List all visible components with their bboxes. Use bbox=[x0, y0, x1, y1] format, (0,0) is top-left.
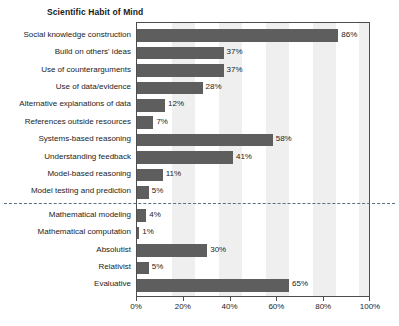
category-label: Use of counterarguments bbox=[41, 65, 131, 75]
category-label: Mathematical modeling bbox=[49, 210, 131, 220]
bar bbox=[137, 244, 207, 257]
bar bbox=[137, 64, 224, 77]
x-ticklabel: 80% bbox=[315, 302, 331, 311]
x-tick bbox=[230, 297, 231, 301]
value-label: 30% bbox=[210, 245, 226, 255]
x-tick bbox=[183, 297, 184, 301]
bar bbox=[137, 29, 338, 42]
bar bbox=[137, 82, 203, 95]
category-label: Build on others' ideas bbox=[55, 47, 131, 57]
value-label: 41% bbox=[236, 152, 252, 162]
bars-layer bbox=[137, 23, 369, 296]
category-label: References outside resources bbox=[25, 117, 131, 127]
value-label: 65% bbox=[292, 279, 308, 289]
value-label: 11% bbox=[166, 169, 181, 179]
chart-figure: Scientific Habit of Mind Social knowledg… bbox=[0, 0, 399, 326]
category-label: Alternative explanations of data bbox=[19, 99, 131, 109]
category-label: Understanding feedback bbox=[44, 152, 131, 162]
x-tick bbox=[276, 297, 277, 301]
value-label: 12% bbox=[168, 99, 184, 109]
plot-area bbox=[136, 22, 370, 297]
x-ticklabel: 60% bbox=[268, 302, 284, 311]
value-label: 5% bbox=[152, 186, 164, 196]
category-label: Mathematical computation bbox=[38, 227, 131, 237]
value-label: 4% bbox=[149, 210, 161, 220]
bar bbox=[137, 134, 273, 147]
x-ticklabel: 40% bbox=[222, 302, 238, 311]
x-tick bbox=[136, 297, 137, 301]
value-label: 86% bbox=[341, 30, 357, 40]
bar bbox=[137, 169, 163, 182]
value-label: 37% bbox=[227, 47, 243, 57]
x-ticklabel: 20% bbox=[175, 302, 191, 311]
category-label: Social knowledge construction bbox=[23, 30, 131, 40]
x-ticklabel: 100% bbox=[360, 302, 380, 311]
value-label: 58% bbox=[276, 134, 292, 144]
bar bbox=[137, 279, 289, 292]
category-label: Use of data/evidence bbox=[56, 82, 131, 92]
x-tick bbox=[369, 297, 370, 301]
category-label: Model-based reasoning bbox=[47, 169, 131, 179]
x-axis-ticklabels: 0%20%40%60%80%100% bbox=[136, 302, 370, 316]
bar bbox=[137, 262, 149, 275]
x-ticklabel: 0% bbox=[130, 302, 142, 311]
category-label: Relativist bbox=[99, 262, 131, 272]
chart-title: Scientific Habit of Mind bbox=[47, 7, 143, 17]
value-label: 28% bbox=[206, 82, 222, 92]
bar bbox=[137, 151, 233, 164]
value-label: 5% bbox=[152, 262, 164, 272]
bar bbox=[137, 209, 146, 222]
category-label: Evaluative bbox=[94, 279, 131, 289]
value-label: 1% bbox=[142, 227, 154, 237]
bar bbox=[137, 116, 153, 129]
bar bbox=[137, 99, 165, 112]
value-label: 37% bbox=[227, 65, 243, 75]
category-label: Model testing and prediction bbox=[31, 186, 131, 196]
category-label: Systems-based reasoning bbox=[39, 134, 132, 144]
x-tick bbox=[323, 297, 324, 301]
bar bbox=[137, 227, 139, 240]
bar bbox=[137, 186, 149, 199]
value-label: 7% bbox=[156, 117, 168, 127]
bar bbox=[137, 47, 224, 60]
group-divider bbox=[4, 203, 395, 204]
category-label: Absolutist bbox=[96, 245, 131, 255]
